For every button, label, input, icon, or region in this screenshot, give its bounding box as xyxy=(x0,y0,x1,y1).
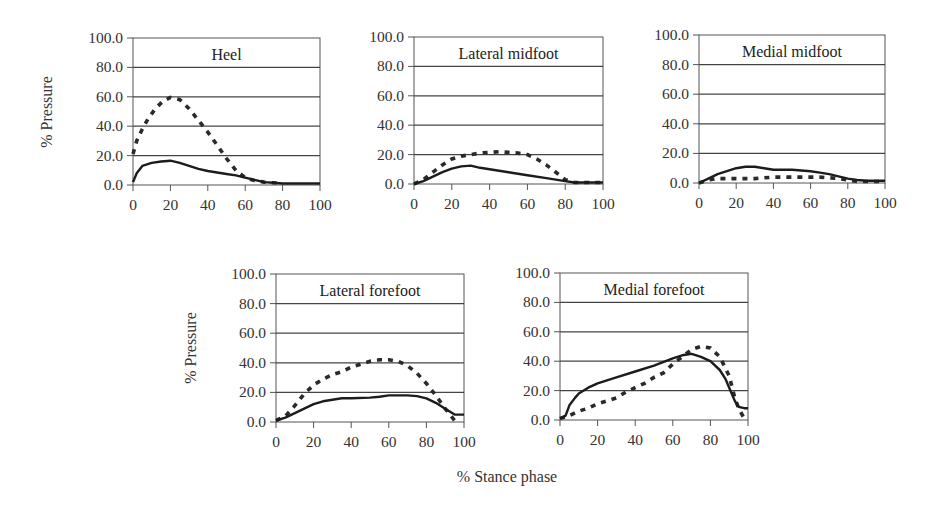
y-tick-label: 0.0 xyxy=(531,411,551,428)
y-tick-label: 40.0 xyxy=(523,352,550,369)
y-tick-label: 40.0 xyxy=(96,117,123,134)
x-axis-label: % Stance phase xyxy=(457,468,557,486)
panel-title: Lateral midfoot xyxy=(459,45,560,62)
x-tick-label: 40 xyxy=(343,433,359,450)
panel-title: Heel xyxy=(211,46,242,63)
x-tick-label: 60 xyxy=(520,195,536,212)
y-tick-label: 20.0 xyxy=(523,382,550,399)
x-tick-label: 0 xyxy=(410,195,418,212)
y-tick-label: 0.0 xyxy=(385,175,405,192)
y-tick-label: 40.0 xyxy=(239,354,266,371)
y-tick-label: 60.0 xyxy=(377,87,404,104)
y-tick-label: 0.0 xyxy=(670,174,690,191)
x-tick-label: 100 xyxy=(452,433,476,450)
y-tick-label: 100.0 xyxy=(88,29,123,46)
y-tick-label: 20.0 xyxy=(662,144,689,161)
y-tick-label: 80.0 xyxy=(662,56,689,73)
x-tick-label: 100 xyxy=(591,195,615,212)
x-tick-label: 80 xyxy=(419,433,435,450)
y-tick-label: 100.0 xyxy=(231,265,266,282)
panel-title: Medial forefoot xyxy=(604,281,705,298)
x-tick-label: 0 xyxy=(556,431,564,448)
y-tick-label: 20.0 xyxy=(377,146,404,163)
x-tick-label: 100 xyxy=(308,196,332,213)
y-tick-label: 100.0 xyxy=(654,26,689,43)
panel-heel: 0.020.040.060.080.0100.0020406080100Heel xyxy=(88,29,332,213)
panel-lateral-forefoot: 0.020.040.060.080.0100.0020406080100Late… xyxy=(231,265,476,450)
x-tick-label: 20 xyxy=(163,196,179,213)
y-tick-label: 60.0 xyxy=(96,88,123,105)
x-tick-label: 40 xyxy=(482,195,498,212)
x-tick-label: 80 xyxy=(557,195,573,212)
x-tick-label: 40 xyxy=(627,431,643,448)
y-axis-label-bottom: % Pressure xyxy=(182,312,199,384)
y-tick-label: 80.0 xyxy=(377,57,404,74)
panel-medial-forefoot: 0.020.040.060.080.0100.0020406080100Medi… xyxy=(515,264,760,448)
y-tick-label: 20.0 xyxy=(96,147,123,164)
x-tick-label: 20 xyxy=(444,195,460,212)
y-tick-label: 100.0 xyxy=(515,264,550,281)
x-tick-label: 100 xyxy=(736,431,760,448)
y-tick-label: 80.0 xyxy=(523,293,550,310)
x-tick-label: 20 xyxy=(306,433,322,450)
y-axis-label-top: % Pressure xyxy=(38,76,55,148)
y-tick-label: 0.0 xyxy=(104,176,124,193)
x-tick-label: 60 xyxy=(665,431,681,448)
x-tick-label: 20 xyxy=(590,431,606,448)
x-tick-label: 20 xyxy=(728,194,744,211)
y-tick-label: 80.0 xyxy=(96,58,123,75)
x-tick-label: 80 xyxy=(275,196,291,213)
x-tick-label: 60 xyxy=(803,194,819,211)
y-tick-label: 60.0 xyxy=(239,324,266,341)
panel-title: Medial midfoot xyxy=(742,43,843,60)
panel-lateral-midfoot: 0.020.040.060.080.0100.0020406080100Late… xyxy=(369,28,615,212)
x-tick-label: 60 xyxy=(381,433,397,450)
x-tick-label: 40 xyxy=(200,196,216,213)
x-tick-label: 0 xyxy=(695,194,703,211)
y-tick-label: 40.0 xyxy=(662,115,689,132)
y-tick-label: 40.0 xyxy=(377,116,404,133)
x-tick-label: 60 xyxy=(237,196,253,213)
panel-title: Lateral forefoot xyxy=(320,282,421,299)
x-tick-label: 80 xyxy=(703,431,719,448)
y-tick-label: 60.0 xyxy=(662,85,689,102)
y-tick-label: 20.0 xyxy=(239,383,266,400)
y-tick-label: 100.0 xyxy=(369,28,404,45)
y-tick-label: 80.0 xyxy=(239,295,266,312)
x-tick-label: 0 xyxy=(129,196,137,213)
y-tick-label: 0.0 xyxy=(247,413,267,430)
figure: % Pressure % Pressure % Stance phase 0.0… xyxy=(0,0,929,516)
x-tick-label: 40 xyxy=(766,194,782,211)
x-tick-label: 0 xyxy=(272,433,280,450)
x-tick-label: 80 xyxy=(840,194,856,211)
y-tick-label: 60.0 xyxy=(523,323,550,340)
x-tick-label: 100 xyxy=(873,194,897,211)
panel-medial-midfoot: 0.020.040.060.080.0100.0020406080100Medi… xyxy=(654,26,897,211)
